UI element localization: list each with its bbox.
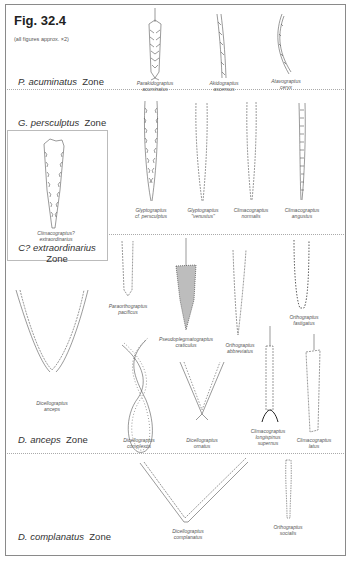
- specimen-label: Glyptograptuscf. persculptus: [135, 207, 167, 219]
- specimen-drawing-climacograptus-longispinus: [262, 326, 278, 422]
- specimen-label: Climacograptuslongispinussupernus: [251, 428, 286, 446]
- specimen-drawing-climacograptus-normalis: [247, 102, 256, 200]
- specimen-species: angustus: [285, 213, 320, 219]
- zone-label-acuminatus: P. acuminatus Zone: [18, 76, 104, 87]
- zone-label-extraordinarius: C? extraordinarius Zone: [14, 242, 100, 264]
- specimen-label: Pseudoplegmatograptuscraticulus: [159, 336, 213, 348]
- specimen-drawing-atavograptus: [278, 14, 291, 74]
- zone-suffix: Zone: [14, 253, 100, 264]
- specimen-species: abbreviatus: [225, 348, 254, 354]
- specimen-species: complanatus: [172, 534, 204, 540]
- specimen-species: ceryx: [271, 84, 300, 90]
- specimen-label: Dicellograptuscomplanatus: [172, 528, 204, 540]
- zone-suffix: Zone: [89, 531, 111, 542]
- specimen-drawing-orthograptus-abbreviatus: [233, 250, 246, 335]
- specimen-species: extraordinarius: [37, 236, 75, 242]
- specimen-drawing-climacograptus-latus: [306, 334, 320, 432]
- specimen-drawing-dicellograptus-complexus: [122, 338, 152, 452]
- specimen-label: Orthograptusabbreviatus: [225, 342, 254, 354]
- specimen-label: Paraorthograptuspacificus: [109, 303, 148, 315]
- zone-name: D. anceps: [18, 434, 61, 445]
- specimen-species: normalis: [234, 213, 269, 219]
- zone-suffix: Zone: [66, 434, 88, 445]
- specimen-drawing-dicellograptus-ornatus: [180, 362, 224, 420]
- zone-label-anceps: D. anceps Zone: [18, 434, 88, 445]
- specimen-drawing-glyptograptus-persculptus: [144, 101, 158, 201]
- zone-suffix: Zone: [85, 117, 107, 128]
- specimen-label: Climacograptus?extraordinarius: [37, 230, 75, 242]
- specimen-label: Dicellograptuscomplexus: [123, 437, 155, 449]
- specimen-species: anceps: [36, 406, 68, 412]
- specimen-species: pacificus: [109, 309, 148, 315]
- specimen-species: ascensus: [209, 86, 238, 92]
- specimen-drawing-orthograptus-socialis: [286, 460, 292, 518]
- zone-name: C? extraordinarius: [14, 242, 100, 253]
- specimen-label: Climacograptusnormalis: [234, 207, 269, 219]
- specimen-drawing-dicellograptus-complanatus: [140, 458, 248, 522]
- specimen-species: complexus: [123, 443, 155, 449]
- specimen-drawing-orthograptus-fastigatus: [294, 240, 309, 308]
- specimen-species: socialis: [273, 530, 302, 536]
- specimen-drawing-akidograptus: [217, 14, 226, 78]
- specimen-species: cf. persculptus: [135, 213, 167, 219]
- specimen-drawing-paraorthograptus: [122, 241, 133, 296]
- zone-name: D. complanatus: [18, 531, 84, 542]
- specimen-label: Dicellograptusornatus: [186, 437, 218, 449]
- specimen-drawing-pseudoplegmatograptus: [176, 238, 196, 330]
- zone-suffix: Zone: [82, 76, 104, 87]
- specimen-species: acuminatus: [137, 86, 173, 92]
- specimen-label: Dicellograptusanceps: [36, 400, 68, 412]
- specimen-label: Akidograptusascensus: [209, 80, 238, 92]
- specimen-drawing-glyptograptus-venustus: [196, 103, 207, 201]
- specimen-drawing-dicellograptus-anceps: [16, 290, 88, 372]
- specimen-label: Orthograptussocialis: [273, 524, 302, 536]
- specimen-species: fastigatus: [289, 320, 318, 326]
- specimen-species: ornatus: [186, 443, 218, 449]
- specimen-label: Climacograptuslatus: [297, 437, 332, 449]
- specimen-subspecies: supernus: [251, 440, 286, 446]
- specimen-label: Parakidograptusacuminatus: [137, 80, 173, 92]
- specimen-species: latus: [297, 443, 332, 449]
- specimen-drawing-climacograptus-angustus: [299, 103, 305, 200]
- specimen-drawing-climacograptus-extraordinarius: [44, 139, 64, 228]
- zone-label-persculptus: G. persculptus Zone: [18, 117, 106, 128]
- specimen-label: Glyptograptus"venustus": [187, 207, 218, 219]
- specimen-drawing-parakidograptus: [149, 8, 161, 80]
- specimen-species: "venustus": [187, 213, 218, 219]
- specimen-label: Atavograptusceryx: [271, 78, 300, 90]
- zone-name: P. acuminatus: [18, 76, 77, 87]
- zone-name: G. persculptus: [18, 117, 79, 128]
- specimen-label: Orthograptusfastigatus: [289, 314, 318, 326]
- specimen-species: craticulus: [159, 342, 213, 348]
- zone-label-complanatus: D. complanatus Zone: [18, 531, 111, 542]
- specimen-label: Climacograptusangustus: [285, 207, 320, 219]
